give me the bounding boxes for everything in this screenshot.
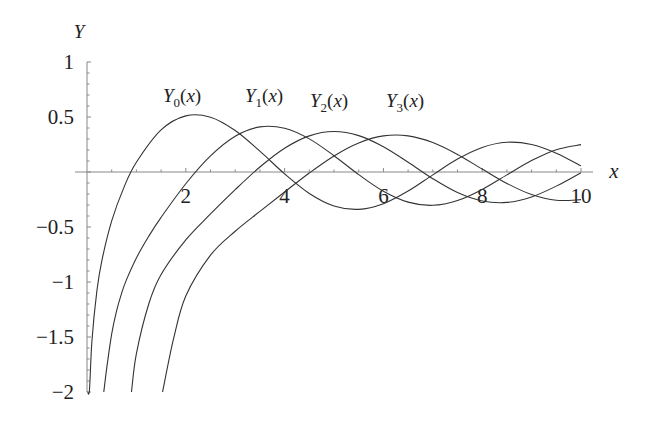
curve-y1x [104, 126, 581, 392]
x-axis-label: x [608, 159, 619, 183]
curve-y3x [163, 135, 581, 392]
x-tick-label: 6 [378, 184, 389, 208]
series-label: Y2(x) [310, 90, 348, 115]
series-label: Y0(x) [163, 85, 201, 110]
y-tick-label: −1.5 [36, 325, 74, 349]
bessel-y-chart: 24681010.5−0.5−1−1.5−2 Y0(x)Y1(x)Y2(x)Y3… [0, 0, 654, 421]
x-tick-label: 10 [571, 184, 592, 208]
y-tick-label: −2 [52, 380, 74, 404]
y-axis-label: Y [74, 21, 87, 42]
y-tick-label: −0.5 [36, 215, 74, 239]
series-label: Y3(x) [386, 90, 424, 115]
y-tick-label: 0.5 [48, 105, 74, 129]
curves [88, 115, 581, 394]
y-tick-label: −1 [52, 270, 74, 294]
x-tick-label: 4 [279, 184, 290, 208]
y-tick-label: 1 [64, 50, 75, 74]
curve-labels: Y0(x)Y1(x)Y2(x)Y3(x) [163, 85, 424, 115]
series-label: Y1(x) [245, 85, 283, 110]
